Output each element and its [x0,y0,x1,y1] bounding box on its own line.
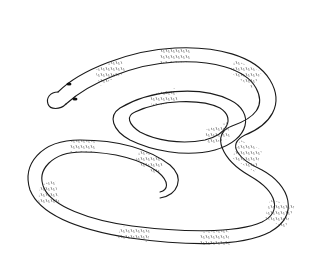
snake-bands [38,47,295,246]
snake-eye-top [67,82,72,85]
snake-coil [113,91,245,153]
snake-drawing [0,0,313,268]
snake-head [47,92,66,109]
snake-eye-bottom [73,97,78,100]
illustration-canvas [0,0,313,268]
